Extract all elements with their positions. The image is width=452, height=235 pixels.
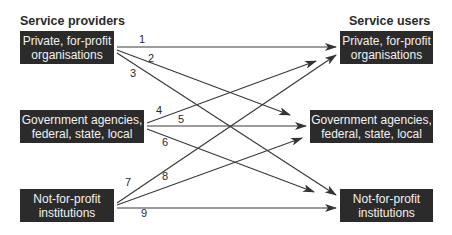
arrow-7: [117, 55, 336, 203]
arrow-label-1: 1: [139, 33, 145, 45]
user-government-line1: Government agencies,: [311, 113, 432, 127]
arrow-8: [117, 138, 302, 205]
user-private-line1: Private, for-profit: [342, 34, 431, 48]
user-government-line2: federal, state, local: [321, 127, 422, 141]
arrow-label-4: 4: [156, 104, 162, 116]
user-private-line2: organisations: [351, 48, 422, 62]
provider-nfp-line2: institutions: [39, 206, 96, 220]
provider-private-box: Private, for-profit organisations: [20, 31, 114, 64]
provider-private-line2: organisations: [31, 48, 102, 62]
arrow-label-6: 6: [162, 136, 168, 148]
arrow-label-5: 5: [178, 113, 184, 125]
provider-nfp-box: Not-for-profit institutions: [20, 189, 114, 222]
user-nfp-line2: institutions: [358, 206, 415, 220]
provider-government-box: Government agencies, federal, state, loc…: [20, 110, 144, 143]
provider-private-line1: Private, for-profit: [23, 34, 112, 48]
arrow-label-2: 2: [148, 52, 154, 64]
arrow-label-8: 8: [162, 170, 168, 182]
arrow-3: [117, 53, 336, 195]
arrow-label-3: 3: [130, 67, 136, 79]
arrow-2: [117, 50, 290, 115]
user-private-box: Private, for-profit organisations: [340, 31, 433, 64]
user-nfp-box: Not-for-profit institutions: [340, 189, 433, 222]
provider-government-line1: Government agencies,: [22, 113, 143, 127]
arrow-label-7: 7: [125, 176, 131, 188]
user-nfp-line1: Not-for-profit: [353, 192, 420, 206]
arrow-6: [147, 129, 314, 192]
arrow-label-9: 9: [141, 207, 147, 219]
provider-government-line2: federal, state, local: [32, 127, 133, 141]
user-government-box: Government agencies, federal, state, loc…: [310, 110, 433, 143]
provider-nfp-line1: Not-for-profit: [33, 192, 100, 206]
